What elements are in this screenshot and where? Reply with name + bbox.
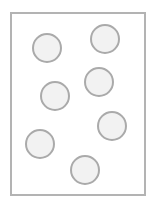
circle-2 (90, 24, 120, 54)
circle-5 (97, 111, 127, 141)
circle-6 (25, 129, 55, 159)
circle-3 (84, 67, 114, 97)
circle-7 (70, 155, 100, 185)
circle-4 (40, 81, 70, 111)
circle-1 (32, 33, 62, 63)
